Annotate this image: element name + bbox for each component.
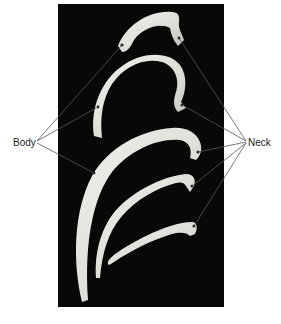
rib-illustration [0,0,281,324]
rib-anatomy-figure: Body Neck [0,0,281,324]
neck-label: Neck [248,138,271,148]
body-label: Body [13,138,36,148]
